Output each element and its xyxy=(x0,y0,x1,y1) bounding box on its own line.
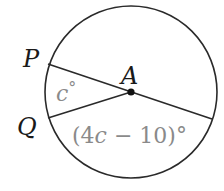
circle-diagram-svg: P Q A c° (4c − 10)° xyxy=(0,0,224,191)
angle-expr-suffix: − 10)° xyxy=(107,123,187,148)
geometry-diagram: P Q A c° (4c − 10)° xyxy=(0,0,224,191)
label-q: Q xyxy=(17,113,37,141)
label-a: A xyxy=(119,62,138,90)
angle-expr-prefix: (4 xyxy=(72,123,95,148)
angle-var-c: c xyxy=(56,81,68,106)
label-p: P xyxy=(22,45,40,73)
angle-expr-var: c xyxy=(95,123,107,148)
angle-label-large: (4c − 10)° xyxy=(72,123,187,148)
degree-symbol: ° xyxy=(68,78,76,97)
angle-label-small: c° xyxy=(56,78,76,106)
